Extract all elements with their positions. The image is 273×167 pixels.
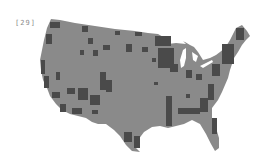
us-outline <box>40 19 250 152</box>
us-county-map <box>0 0 273 167</box>
